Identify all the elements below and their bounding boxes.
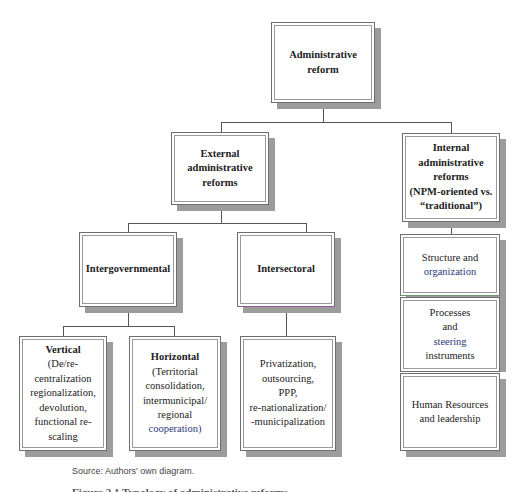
node-human-resources: Human Resources and leadership	[400, 373, 500, 451]
source-note: Source: Authors' own diagram.	[72, 466, 194, 476]
node-intergovernmental: Intergovernmental	[79, 232, 177, 307]
node-label: Human Resources and leadership	[408, 398, 493, 427]
label-line: PPP,	[250, 386, 327, 400]
node-label: Vertical (De/re-centralization regionali…	[20, 343, 106, 444]
label-line: reforms	[187, 176, 252, 190]
node-structure-organization: Structure and organization	[400, 234, 500, 296]
node-label: External administrative reforms	[183, 147, 256, 190]
label-line: administrative	[410, 156, 493, 170]
label-line: cooperation)	[143, 422, 207, 436]
node-vertical: Vertical (De/re-centralization regionali…	[19, 336, 107, 451]
connector-level1-bar	[221, 122, 452, 123]
node-processes-steering: Processes and steering instruments	[400, 297, 500, 372]
connector-intergov-bar	[63, 326, 175, 327]
connector-external-down	[221, 205, 222, 223]
node-label: Administrative reform	[279, 48, 367, 77]
node-external-reforms: External administrative reforms	[171, 132, 269, 205]
connector-intergov-down	[128, 307, 129, 326]
label-title: Vertical	[24, 343, 102, 357]
connector-to-intergovernmental	[128, 223, 129, 232]
label-line: “traditional”)	[410, 199, 493, 213]
figure-caption: Figure 2.1 Typology of administrative re…	[72, 484, 288, 492]
label-line: Internal	[410, 141, 493, 155]
node-label: Structure and organization	[418, 251, 482, 280]
label-line: organization	[422, 265, 478, 279]
label-line: re-nationalization/	[250, 401, 327, 415]
node-privatization: Privatization, outsourcing, PPP, re-nati…	[240, 336, 336, 451]
label-line: steering	[426, 335, 475, 349]
label-line: -municipalization	[250, 415, 327, 429]
label-line: and	[426, 320, 475, 334]
label-line: (NPM-oriented vs.	[410, 185, 493, 199]
label-line: Privatization,	[250, 357, 327, 371]
connector-to-external	[221, 122, 222, 132]
label-line: intermunicipal/	[143, 394, 207, 408]
label-line: Human Resources	[412, 398, 489, 412]
label-line: administrative	[187, 161, 252, 175]
label-line: functional re-scaling	[24, 415, 102, 444]
node-label: Processes and steering instruments	[422, 306, 479, 364]
label-line: Structure and	[422, 251, 478, 265]
label-line: reforms	[410, 170, 493, 184]
node-intersectoral: Intersectoral	[237, 232, 335, 307]
label-line: (De/re-centralization	[24, 357, 102, 386]
node-internal-reforms: Internal administrative reforms (NPM-ori…	[402, 133, 500, 222]
label-line: regionalization,	[24, 386, 102, 400]
label-line: Processes	[426, 306, 475, 320]
node-label: Privatization, outsourcing, PPP, re-nati…	[246, 357, 331, 429]
label-line: regional	[143, 408, 207, 422]
connector-internal-down	[451, 222, 452, 234]
label-line: instruments	[426, 349, 475, 363]
node-administrative-reform: Administrative reform	[271, 22, 375, 103]
label-line: and leadership	[412, 412, 489, 426]
label-line: consolidation,	[143, 379, 207, 393]
label-line: devolution,	[24, 401, 102, 415]
label-title: Horizontal	[143, 350, 207, 364]
connector-to-internal	[451, 122, 452, 133]
node-label: Horizontal (Territorial consolidation, i…	[139, 350, 211, 437]
connector-to-intersectoral	[306, 223, 307, 232]
connector-root-down	[323, 103, 324, 122]
node-label: Internal administrative reforms (NPM-ori…	[406, 141, 497, 213]
connector-intersectoral-down	[286, 307, 287, 336]
node-label: Intergovernmental	[82, 262, 175, 276]
label-line: (Territorial	[143, 365, 207, 379]
connector-external-bar	[128, 223, 306, 224]
label-line: External	[187, 147, 252, 161]
node-label: Intersectoral	[253, 262, 319, 276]
connector-to-horizontal	[174, 326, 175, 336]
node-horizontal: Horizontal (Territorial consolidation, i…	[129, 336, 221, 451]
label-line: outsourcing,	[250, 372, 327, 386]
connector-to-vertical	[63, 326, 64, 336]
